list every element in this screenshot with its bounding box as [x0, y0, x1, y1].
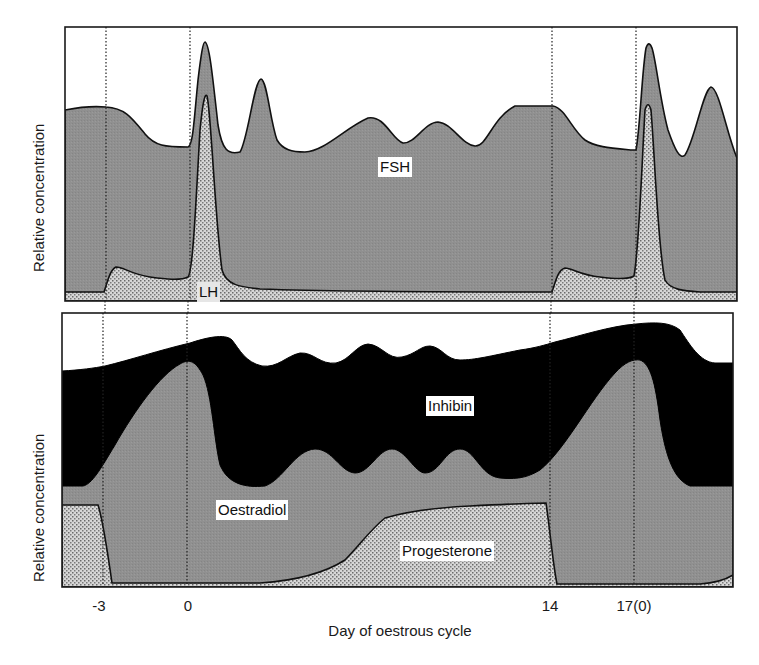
- x-tick-17-0: 17(0): [616, 597, 651, 614]
- lh-label: LH: [197, 282, 220, 302]
- x-tick-14: 14: [542, 597, 559, 614]
- bottom-panel-y-axis-label: Relative concentration: [30, 434, 47, 582]
- progesterone-label: Progesterone: [400, 541, 494, 561]
- top-panel-y-axis-label: Relative concentration: [30, 124, 47, 272]
- inhibin-label: Inhibin: [426, 396, 474, 416]
- x-tick-0: 0: [184, 597, 192, 614]
- x-tick-minus-3: -3: [92, 597, 105, 614]
- hormone-chart-figure: Relative concentration Relative concentr…: [0, 0, 759, 665]
- x-axis-title: Day of oestrous cycle: [328, 622, 471, 639]
- fsh-label: FSH: [378, 157, 412, 177]
- chart-canvas: [0, 0, 759, 665]
- bottom-panel: [62, 313, 733, 587]
- reference-lines-gap: [105, 301, 634, 313]
- oestradiol-label: Oestradiol: [216, 500, 288, 520]
